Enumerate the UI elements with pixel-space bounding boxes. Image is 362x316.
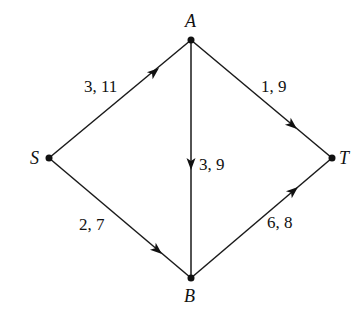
edge-label-s-a: 3, 11 [84,77,117,96]
node-label-s: S [30,148,39,168]
edge-label-a-t: 1, 9 [261,77,287,96]
edge-label-s-b: 2, 7 [79,215,105,234]
node-s [46,155,53,162]
node-label-t: T [339,148,351,168]
node-label-b: B [184,286,195,306]
edge-b-t [191,158,332,278]
edge-label-b-t: 6, 8 [267,213,293,232]
edge-a-t [191,40,332,158]
network-diagram: A S T B 3, 11 2, 7 3, 9 1, 9 6, 8 [0,0,362,316]
edge-s-a [49,40,191,158]
edge-label-a-b: 3, 9 [199,155,225,174]
node-t [329,155,336,162]
node-b [188,275,195,282]
node-label-a: A [184,11,197,31]
node-a [188,37,195,44]
edge-s-b [49,158,191,278]
